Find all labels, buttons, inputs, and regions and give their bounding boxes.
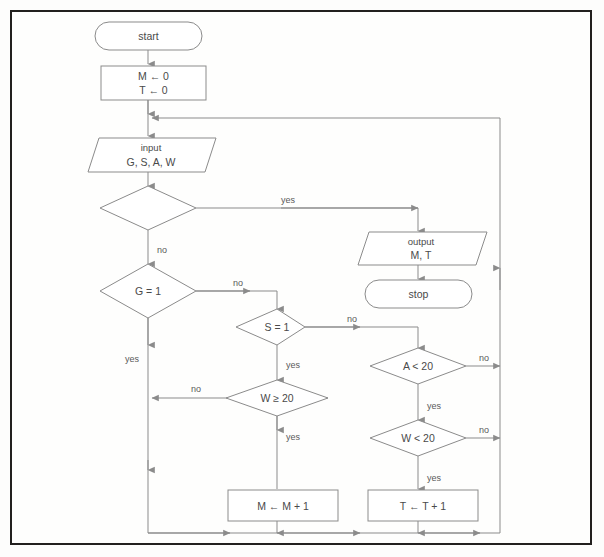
node-input[interactable]: input G, S, A, W xyxy=(88,138,216,172)
flowchart-canvas: start M ← 0 T ← 0 input G, S, A, W outpu… xyxy=(0,0,604,557)
node-output-line1: output xyxy=(408,236,435,247)
node-decision-blank[interactable] xyxy=(100,186,196,230)
node-input-line1: input xyxy=(141,142,162,153)
edge-label-blank-yes: yes xyxy=(281,195,296,205)
flowchart-page: start M ← 0 T ← 0 input G, S, A, W outpu… xyxy=(0,0,604,557)
node-m-inc-label: M ← M + 1 xyxy=(257,500,309,512)
edge-label-s-yes: yes xyxy=(286,360,301,370)
node-wlt-test-label: W < 20 xyxy=(401,432,435,444)
edge-label-blank-no: no xyxy=(157,245,167,255)
node-a-test-label: A < 20 xyxy=(403,360,433,372)
node-stop[interactable]: stop xyxy=(365,280,472,308)
edge-label-a-no: no xyxy=(479,353,489,363)
edge-label-g-yes: yes xyxy=(125,354,140,364)
node-wlt-test[interactable]: W < 20 xyxy=(370,420,466,456)
edge-g-no-to-s xyxy=(196,291,277,309)
edge-label-wlt-no: no xyxy=(479,425,489,435)
edge-label-s-no: no xyxy=(347,314,357,324)
edge-label-a-yes: yes xyxy=(427,401,442,411)
edge-label-g-no: no xyxy=(233,278,243,288)
node-start-label: start xyxy=(138,30,159,42)
node-output[interactable]: output M, T xyxy=(358,232,487,265)
edge-label-wlt-yes: yes xyxy=(427,473,442,483)
node-init-line1: M ← 0 xyxy=(138,70,169,82)
node-a-test[interactable]: A < 20 xyxy=(370,348,466,384)
node-input-line2: G, S, A, W xyxy=(126,156,175,168)
node-output-line2: M, T xyxy=(411,249,432,261)
node-s-test[interactable]: S = 1 xyxy=(236,309,305,345)
node-wge-test[interactable]: W ≥ 20 xyxy=(226,380,328,416)
node-init[interactable]: M ← 0 T ← 0 xyxy=(101,66,206,100)
node-start[interactable]: start xyxy=(95,22,202,50)
edge-s-no-to-a xyxy=(305,327,418,348)
node-s-test-label: S = 1 xyxy=(265,321,290,333)
edge-bottom-rail xyxy=(148,118,500,533)
edge-decision-yes-to-output xyxy=(281,208,418,231)
node-m-inc[interactable]: M ← M + 1 xyxy=(228,490,338,521)
node-stop-label: stop xyxy=(409,288,429,300)
node-init-line2: T ← 0 xyxy=(139,84,168,96)
edge-label-wge-yes: yes xyxy=(286,432,301,442)
node-t-inc-label: T ← T + 1 xyxy=(400,500,447,512)
edge-label-wge-no: no xyxy=(191,384,201,394)
node-g-test[interactable]: G = 1 xyxy=(100,264,196,318)
node-wge-test-label: W ≥ 20 xyxy=(260,392,293,404)
node-g-test-label: G = 1 xyxy=(135,285,161,297)
node-t-inc[interactable]: T ← T + 1 xyxy=(368,490,478,521)
